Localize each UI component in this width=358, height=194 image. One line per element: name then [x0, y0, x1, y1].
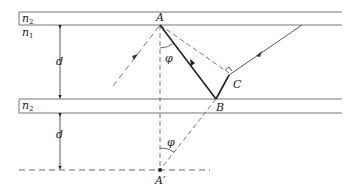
- label-point-A-prime: A′: [154, 174, 166, 187]
- top-cladding-slab: [19, 12, 342, 25]
- label-angle-phi-upper: φ: [165, 52, 173, 65]
- label-d-upper: d: [56, 55, 63, 68]
- ray-C-upward: [229, 25, 302, 75]
- label-n2-mid: n2: [22, 99, 34, 113]
- label-point-B: B: [215, 101, 224, 114]
- upward-arrow-icon: [256, 51, 262, 57]
- point-A-prime-dot: [158, 168, 162, 172]
- label-point-A: A: [155, 11, 164, 24]
- label-point-C: C: [233, 78, 242, 91]
- label-angle-phi-lower: φ: [167, 136, 175, 149]
- extended-dashed-ray: [160, 99, 216, 170]
- label-n1: n1: [22, 26, 34, 40]
- wavefront-dashed-line: [160, 25, 229, 73]
- right-angle-marker: [225, 67, 232, 71]
- lower-cladding-slab: [19, 99, 342, 113]
- angle-arc-upper: [160, 43, 174, 48]
- incident-arrow-icon: [132, 54, 138, 60]
- ray-B-to-C: [216, 75, 229, 99]
- label-d-lower: d: [56, 128, 63, 141]
- waveguide-diagram: n2 n1 n2 d d A B C A′ φ φ: [0, 0, 358, 194]
- label-n2-top: n2: [22, 12, 34, 26]
